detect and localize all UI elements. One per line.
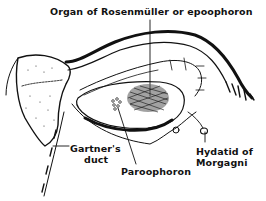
uterus-outline [16,55,70,146]
label-hydatid-line2: Morgagni [196,157,253,168]
label-epoophoron: Organ of Rosenmüller or epoophoron [50,6,253,17]
label-gartner-duct: Gartner's duct [70,143,121,165]
label-hydatid-line1: Hydatid of [196,146,253,157]
label-paroophoron: Paroophoron [121,166,191,177]
stipple-texture [25,65,54,126]
epoophoron-structure [127,84,169,112]
hydatid-cyst [201,128,208,134]
anatomy-diagram: Organ of Rosenmüller or epoophoron Gartn… [0,0,266,201]
paroophoron-dots [112,98,122,111]
label-gartner-line2: duct [70,154,121,165]
label-hydatid-of-morgagni: Hydatid of Morgagni [196,146,253,168]
gartner-duct-lines [44,112,64,196]
label-gartner-line1: Gartner's [70,143,121,154]
